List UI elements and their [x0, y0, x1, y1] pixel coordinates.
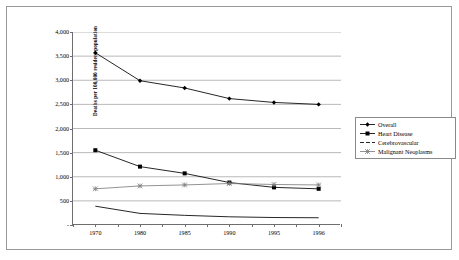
data-point-marker: [138, 79, 142, 83]
y-tick-mark: [70, 56, 73, 57]
y-tick-label: 2,500: [55, 101, 69, 107]
chart-frame: Deaths per 100,000 resident population -…: [6, 6, 452, 250]
legend-item-heart-disease[interactable]: Heart Disease: [358, 129, 453, 138]
x-tick-label: 1980: [134, 230, 146, 236]
data-point-marker: [93, 148, 97, 152]
data-point-marker: [182, 183, 187, 188]
data-point-marker: [365, 149, 370, 154]
data-point-marker: [366, 132, 370, 136]
y-tick-label: 2,000: [55, 126, 69, 132]
data-point-marker: [138, 184, 143, 189]
x-tick-mark: [73, 224, 74, 227]
legend-marker-icon: [359, 129, 376, 138]
y-tick-label: 500: [60, 198, 69, 204]
y-tick-mark: [70, 104, 73, 105]
data-point-marker: [365, 122, 369, 126]
data-point-marker: [272, 100, 276, 104]
legend-marker-icon: [359, 120, 376, 129]
legend-label: Overall: [378, 120, 397, 129]
data-point-marker: [93, 186, 98, 191]
plot-area: Deaths per 100,000 resident population -…: [72, 32, 340, 225]
x-tick-label: 1995: [268, 230, 280, 236]
series-line: [95, 206, 318, 218]
x-tick-mark: [140, 224, 141, 227]
data-point-marker: [227, 181, 232, 186]
x-tick-mark: [95, 224, 96, 227]
y-tick-mark: [70, 177, 73, 178]
x-tick-mark: [118, 224, 119, 227]
legend-marker-icon: [359, 147, 376, 156]
y-tick-mark: [70, 129, 73, 130]
x-tick-mark: [252, 224, 253, 227]
x-tick-mark: [296, 224, 297, 227]
plot-svg: [73, 32, 341, 225]
series-malignant-neoplasms: [93, 181, 321, 191]
y-tick-label: 1,000: [55, 174, 69, 180]
x-tick-mark: [229, 224, 230, 227]
data-point-marker: [138, 165, 142, 169]
series-line: [95, 53, 318, 105]
series-cerebrovascular: [95, 206, 318, 218]
y-tick-label: 3,500: [55, 53, 69, 59]
y-tick-label: 4,000: [55, 29, 69, 35]
data-point-marker: [272, 182, 277, 187]
y-tick-label: 1,500: [55, 150, 69, 156]
data-point-marker: [93, 51, 97, 55]
data-point-marker: [316, 183, 321, 188]
data-point-marker: [227, 96, 231, 100]
y-tick-mark: [70, 32, 73, 33]
x-tick-label: 1985: [179, 230, 191, 236]
legend-label: Cerebrovascular: [378, 138, 419, 147]
data-point-marker: [183, 171, 187, 175]
x-tick-label: 1990: [223, 230, 235, 236]
x-tick-mark: [162, 224, 163, 227]
x-tick-label: 1996: [313, 230, 325, 236]
chart-legend: OverallHeart DiseaseCerebrovascularMalig…: [355, 117, 456, 159]
x-tick-label: 1970: [89, 230, 101, 236]
legend-item-overall[interactable]: Overall: [358, 120, 453, 129]
series-overall: [93, 51, 321, 107]
legend-item-malignant-neoplasms[interactable]: Malignant Neoplasms: [358, 147, 453, 156]
legend-label: Heart Disease: [378, 129, 413, 138]
x-tick-mark: [341, 224, 342, 227]
data-point-marker: [317, 187, 321, 191]
x-tick-mark: [207, 224, 208, 227]
y-tick-mark: [70, 201, 73, 202]
legend-marker-icon: [359, 138, 376, 147]
data-point-marker: [316, 102, 320, 106]
series-line: [95, 150, 318, 189]
legend-label: Malignant Neoplasms: [378, 147, 432, 156]
gridlines: [73, 32, 341, 201]
y-tick-mark: [70, 153, 73, 154]
legend-item-cerebrovascular[interactable]: Cerebrovascular: [358, 138, 453, 147]
series-layer: [93, 51, 321, 218]
y-tick-label: -: [67, 222, 69, 228]
x-tick-mark: [185, 224, 186, 227]
x-tick-mark: [319, 224, 320, 227]
y-tick-mark: [70, 80, 73, 81]
data-point-marker: [182, 86, 186, 90]
x-tick-mark: [274, 224, 275, 227]
y-tick-label: 3,000: [55, 77, 69, 83]
